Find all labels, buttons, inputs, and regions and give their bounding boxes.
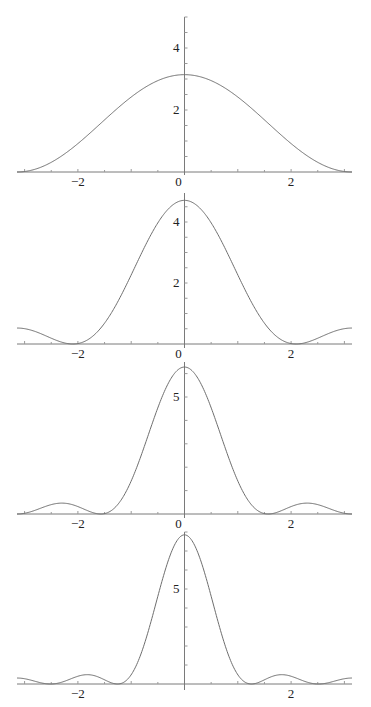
- x-tick-label: −2: [71, 686, 85, 701]
- x-tick-label: 2: [288, 686, 295, 701]
- x-tick-label: −2: [71, 346, 85, 361]
- y-tick-label: 5: [173, 389, 180, 404]
- y-tick-label: 5: [173, 581, 180, 596]
- x-tick-label: 2: [288, 174, 295, 189]
- fejer-kernel-plots: −20224 −20224 −2025 −225: [0, 0, 371, 707]
- plot-3: −2025: [17, 362, 352, 531]
- x-tick-label: −2: [71, 516, 85, 531]
- x-tick-label: 2: [288, 346, 295, 361]
- plot-4: −225: [17, 532, 352, 701]
- x-tick-label: −2: [71, 174, 85, 189]
- x-tick-label: 0: [175, 346, 182, 361]
- y-tick-label: 4: [173, 214, 180, 229]
- y-tick-label: 4: [173, 40, 180, 55]
- plot-1: −20224: [17, 17, 352, 189]
- x-tick-label: 0: [175, 516, 182, 531]
- x-tick-label: 2: [288, 516, 295, 531]
- y-tick-label: 2: [173, 102, 180, 117]
- x-tick-label: 0: [175, 174, 182, 189]
- plot-2: −20224: [17, 193, 352, 361]
- y-tick-label: 2: [173, 275, 180, 290]
